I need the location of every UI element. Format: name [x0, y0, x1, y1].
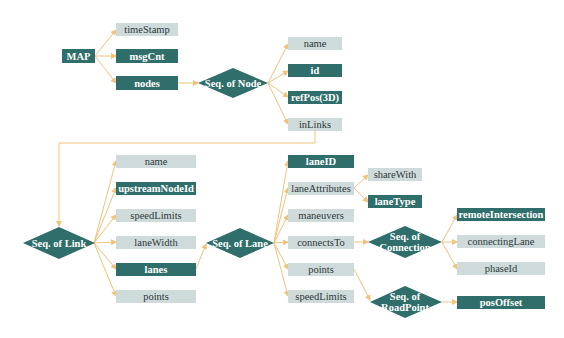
node-seq-of-link: Seq. of Link: [23, 227, 95, 259]
edge-seqlink-upstreamnodeid: [94, 188, 116, 243]
node-nodes-label: nodes: [134, 78, 160, 89]
node-refpos: refPos(3D): [288, 91, 342, 104]
node-lanewidth: laneWidth: [116, 236, 196, 249]
node-link-points-label: points: [143, 291, 169, 302]
node-link-points: points: [116, 290, 196, 303]
node-remoteintersection: remoteIntersection: [457, 208, 545, 221]
edge-seqnode-inlinks: [268, 83, 288, 124]
node-link-speedlimits-label: speedLimits: [130, 210, 181, 221]
node-id-label: id: [311, 65, 320, 76]
node-link-name-label: name: [145, 156, 168, 167]
node-connectsto: connectsTo: [288, 236, 354, 249]
node-seq-of-node: Seq. of Node: [198, 68, 268, 98]
node-map-label: MAP: [67, 51, 91, 62]
node-lane-speedlimits: speedLimits: [288, 290, 354, 303]
node-laneid: laneID: [288, 155, 354, 168]
node-maneuvers: maneuvers: [288, 209, 354, 222]
edge-seqconnection-phaseid: [442, 242, 457, 269]
node-sharewith-label: shareWith: [374, 169, 417, 180]
node-link-name: name: [116, 155, 196, 168]
node-inlinks-label: inLinks: [299, 119, 331, 130]
edge-map-timestamp: [95, 30, 116, 56]
node-lanes: lanes: [116, 263, 196, 276]
node-msgcnt-label: msgCnt: [129, 51, 165, 62]
node-sharewith: shareWith: [368, 168, 422, 181]
node-lane-points-label: points: [308, 264, 334, 275]
node-seq-of-roadpoint-line2: RoadPoint: [381, 302, 429, 313]
map-message-structure-diagram: MAP timeStamp msgCnt nodes Seq. of Node …: [0, 0, 564, 338]
edge-seqlane-points: [274, 243, 288, 269]
node-node-name-label: name: [304, 38, 327, 49]
edge-laneattributes-lanetype: [354, 188, 368, 202]
node-map: MAP: [62, 49, 95, 63]
node-posoffset: posOffset: [457, 296, 545, 309]
node-seq-of-lane: Seq. of Lane: [206, 228, 274, 258]
node-nodes: nodes: [116, 76, 178, 90]
node-lanes-label: lanes: [145, 264, 168, 275]
node-timestamp: timeStamp: [116, 23, 178, 36]
node-connectsto-label: connectsTo: [297, 237, 345, 248]
node-upstreamnodeid: upstreamNodeId: [116, 182, 196, 195]
node-id: id: [288, 64, 342, 77]
node-lane-speedlimits-label: speedLimits: [295, 291, 346, 302]
edge-lanes-seqlane: [196, 244, 206, 269]
node-maneuvers-label: maneuvers: [298, 210, 343, 221]
edge-laneattributes-sharewith: [354, 175, 368, 188]
node-seq-of-connection-line1: Seq. of: [390, 231, 421, 242]
node-connectinglane: connectingLane: [457, 235, 545, 248]
edge-seqlane-laneattributes: [274, 188, 288, 243]
node-timestamp-label: timeStamp: [124, 24, 170, 35]
node-inlinks: inLinks: [288, 118, 342, 131]
edge-seqlink-lanes: [94, 243, 116, 269]
edge-seqlane-laneid: [274, 161, 288, 243]
node-phaseid-label: phaseId: [485, 263, 518, 274]
node-upstreamnodeid-label: upstreamNodeId: [118, 183, 194, 194]
node-seq-of-link-label: Seq. of Link: [32, 238, 87, 249]
node-seq-of-roadpoint-line1: Seq. of: [390, 291, 421, 302]
edge-points-seqroadpoint: [354, 269, 370, 300]
edge-seqlane-speedlimits: [274, 243, 288, 296]
node-posoffset-label: posOffset: [480, 297, 523, 308]
node-refpos-label: refPos(3D): [291, 92, 340, 104]
node-lanetype: laneType: [368, 195, 422, 208]
node-remoteintersection-label: remoteIntersection: [459, 209, 544, 220]
edge-seqlink-points: [94, 243, 116, 296]
edge-seqlane-connectsto: [274, 242, 288, 243]
node-seq-of-node-label: Seq. of Node: [205, 78, 262, 89]
edge-map-nodes: [95, 56, 116, 83]
edge-seqconnection-remoteintersection: [442, 215, 457, 242]
node-phaseid: phaseId: [457, 262, 545, 275]
node-seq-of-roadpoint: Seq. of RoadPoint: [370, 286, 442, 318]
edge-seqlink-lanewidth: [94, 242, 116, 243]
node-laneid-label: laneID: [306, 156, 337, 167]
node-connectinglane-label: connectingLane: [467, 236, 534, 247]
node-lane-points: points: [288, 263, 354, 276]
node-lanewidth-label: laneWidth: [134, 237, 178, 248]
node-link-speedlimits: speedLimits: [116, 209, 196, 222]
node-node-name: name: [288, 37, 342, 50]
node-msgcnt: msgCnt: [116, 49, 178, 63]
node-seq-of-connection: Seq. of Connection: [368, 226, 442, 258]
node-lanetype-label: laneType: [375, 196, 416, 207]
node-seq-of-connection-line2: Connection: [379, 242, 430, 253]
node-laneattributes: laneAttributes: [288, 182, 354, 195]
node-seq-of-lane-label: Seq. of Lane: [212, 238, 268, 249]
edge-seqlink-name: [94, 161, 116, 243]
node-laneattributes-label: laneAttributes: [291, 183, 350, 194]
